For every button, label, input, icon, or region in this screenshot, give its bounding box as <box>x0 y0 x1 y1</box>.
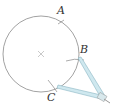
point-label-c: C <box>47 91 56 104</box>
compass-construction-diagram: A B C <box>0 0 115 105</box>
point-label-a: A <box>56 4 65 17</box>
point-label-b: B <box>79 43 88 56</box>
compass-icon <box>57 57 110 103</box>
center-mark <box>38 51 44 57</box>
